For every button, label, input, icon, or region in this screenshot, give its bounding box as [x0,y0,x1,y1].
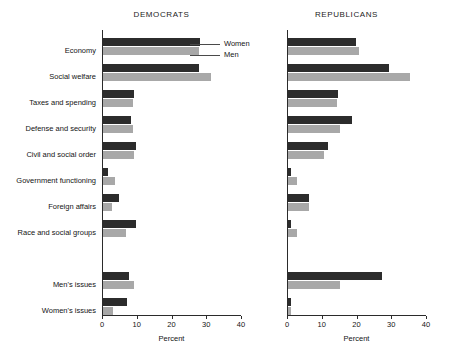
legend-leader-line [190,55,220,56]
panel-title-republicans: REPUBLICANS [277,10,416,19]
x-axis-tick-label: 40 [237,320,245,329]
plot-area-democrats: 010203040Percent [102,30,241,315]
x-axis-tick [137,316,138,319]
category-label: Taxes and spending [29,98,96,107]
x-axis-tick [206,316,207,319]
bar-women-social-welfare [103,64,199,72]
x-axis-tick [172,316,173,319]
x-axis-tick-label: 10 [133,320,141,329]
category-label: Social welfare [49,72,96,81]
category-label: Economy [65,46,96,55]
x-axis-tick [391,316,392,319]
category-label: Civil and social order [26,150,96,159]
x-axis-tick-label: 20 [352,320,360,329]
bar-men-men-s-issues [103,281,134,289]
bar-women-social-welfare [288,64,389,72]
x-axis-tick-label: 0 [285,320,289,329]
bar-men-foreign-affairs [288,203,309,211]
category-label: Men's issues [53,280,96,289]
bar-women-civil-and-social-order [103,142,136,150]
x-axis-title: Percent [159,334,185,343]
x-axis-title: Percent [344,334,370,343]
bar-men-economy [103,47,199,55]
x-axis-tick [357,316,358,319]
bar-men-taxes-and-spending [288,99,337,107]
bar-men-social-welfare [288,73,410,81]
bar-men-civil-and-social-order [288,151,324,159]
bar-men-taxes-and-spending [103,99,133,107]
bar-women-race-and-social-groups [103,220,136,228]
x-axis-tick-label: 30 [387,320,395,329]
bar-women-women-s-issues [103,298,127,306]
bar-women-government-functioning [288,168,291,176]
x-axis-tick-label: 40 [422,320,430,329]
bar-women-defense-and-security [288,116,352,124]
x-axis-tick-label: 10 [318,320,326,329]
bar-women-men-s-issues [288,272,382,280]
bar-women-government-functioning [103,168,108,176]
x-axis-tick [322,316,323,319]
category-label: Defense and security [26,124,96,133]
bar-men-social-welfare [103,73,211,81]
bar-men-foreign-affairs [103,203,112,211]
bar-women-taxes-and-spending [288,90,338,98]
bar-men-economy [288,47,359,55]
bar-men-race-and-social-groups [288,229,297,237]
bar-women-civil-and-social-order [288,142,328,150]
bar-men-civil-and-social-order [103,151,134,159]
x-axis-tick [426,316,427,319]
bar-women-taxes-and-spending [103,90,134,98]
x-axis-tick-label: 0 [100,320,104,329]
legend-leader-line [190,44,220,45]
bar-men-men-s-issues [288,281,340,289]
bar-women-defense-and-security [103,116,131,124]
plot-area-republicans: 010203040Percent [287,30,426,315]
chart-figure: EconomySocial welfareTaxes and spendingD… [0,0,449,357]
x-axis-tick [241,316,242,319]
bar-women-men-s-issues [103,272,129,280]
legend-label: Women [224,39,250,48]
bar-women-economy [288,38,356,46]
bar-men-race-and-social-groups [103,229,126,237]
bar-women-economy [103,38,200,46]
category-label: Women's issues [42,306,96,315]
bar-men-government-functioning [288,177,297,185]
category-label: Race and social groups [18,228,96,237]
x-axis-tick [287,316,288,319]
bar-men-government-functioning [103,177,115,185]
x-axis-tick-label: 30 [202,320,210,329]
panel-title-democrats: DEMOCRATS [92,10,231,19]
x-axis-tick [102,316,103,319]
bar-women-foreign-affairs [288,194,309,202]
bar-men-defense-and-security [288,125,340,133]
bar-men-women-s-issues [103,307,113,315]
bar-women-race-and-social-groups [288,220,291,228]
chart-legend: WomenMen [190,40,260,62]
bar-men-defense-and-security [103,125,133,133]
legend-label: Men [224,50,239,59]
category-label: Foreign affairs [48,202,96,211]
bar-women-foreign-affairs [103,194,119,202]
bar-men-women-s-issues [288,307,291,315]
bar-women-women-s-issues [288,298,291,306]
x-axis-tick-label: 20 [167,320,175,329]
category-label: Government functioning [16,176,96,185]
